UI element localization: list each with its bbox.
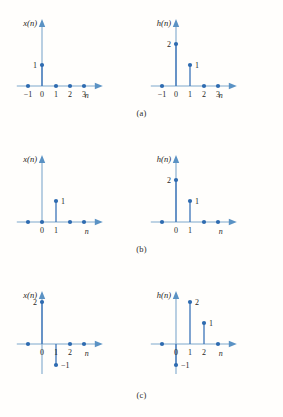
y-axis-arrow-icon (173, 155, 179, 163)
stem-point (40, 63, 44, 67)
stem-value-label: 2 (167, 40, 171, 49)
x-axis-arrow-icon (95, 83, 103, 89)
plot-container-b-x: x(n)n101 (8, 146, 144, 246)
x-axis-label: n (219, 349, 223, 358)
x-tick-label: 0 (40, 226, 44, 235)
x-tick-label: 1 (54, 90, 58, 99)
stem-point (26, 342, 30, 346)
x-tick-label: 1 (188, 348, 192, 357)
panel-a-plots: x(n)n1−10123h(n)n21−10123 (0, 10, 283, 110)
stem-point (82, 342, 86, 346)
stem-point (174, 42, 178, 46)
stem-point (54, 199, 58, 203)
x-axis-arrow-icon (229, 219, 237, 225)
stem-point (216, 84, 220, 88)
y-axis-label: x(n) (22, 18, 37, 28)
plot-container-c-h: h(n)n−121012 (142, 282, 278, 382)
stem-point (68, 84, 72, 88)
stem-point (188, 300, 192, 304)
stem-point (174, 178, 178, 182)
stem-point (174, 363, 178, 367)
x-axis-arrow-icon (229, 83, 237, 89)
stem-plot-b-h: h(n)n2101 (142, 146, 278, 246)
stem-point (216, 342, 220, 346)
stem-value-label: 2 (33, 298, 37, 307)
stem-point (188, 199, 192, 203)
stem-point (26, 220, 30, 224)
x-axis-label: n (85, 349, 89, 358)
x-tick-label: 2 (202, 348, 206, 357)
stem-point (160, 342, 164, 346)
stem-point (202, 321, 206, 325)
stem-plot-c-x: x(n)n2−1012 (8, 282, 144, 382)
stem-point (40, 300, 44, 304)
stem-value-label: −1 (181, 361, 190, 370)
stem-value-label: 1 (33, 61, 37, 70)
stem-point (202, 220, 206, 224)
plot-container-b-h: h(n)n2101 (142, 146, 278, 246)
y-axis-label: h(n) (157, 290, 171, 300)
panel-b-plots: x(n)n101h(n)n2101 (0, 146, 283, 246)
panel-caption-b: (b) (0, 244, 283, 254)
x-tick-label: 0 (174, 226, 178, 235)
panel-a: x(n)n1−10123h(n)n21−10123 (0, 10, 283, 110)
plot-container-a-x: x(n)n1−10123 (8, 10, 144, 110)
stem-point (54, 84, 58, 88)
x-tick-label: 3 (82, 90, 86, 99)
x-tick-label: 2 (68, 90, 72, 99)
x-tick-label: −1 (158, 90, 167, 99)
y-axis-label: h(n) (157, 18, 171, 28)
stem-point (54, 363, 58, 367)
x-tick-label: 1 (54, 226, 58, 235)
y-axis-arrow-icon (39, 19, 45, 27)
stem-point (160, 84, 164, 88)
stem-plot-a-x: x(n)n1−10123 (8, 10, 144, 110)
stem-plot-a-h: h(n)n21−10123 (142, 10, 278, 110)
stem-value-label: 1 (195, 197, 199, 206)
stem-value-label: 1 (195, 61, 199, 70)
stem-point (202, 84, 206, 88)
stem-point (82, 84, 86, 88)
stem-value-label: 2 (195, 298, 199, 307)
y-axis-arrow-icon (39, 291, 45, 299)
stem-plot-c-h: h(n)n−121012 (142, 282, 278, 382)
x-tick-label: 0 (174, 348, 178, 357)
plot-container-c-x: x(n)n2−1012 (8, 282, 144, 382)
x-tick-label: 2 (68, 348, 72, 357)
stem-plot-figure: x(n)n1−10123h(n)n21−10123(a)x(n)n101h(n)… (0, 0, 283, 417)
x-axis-arrow-icon (95, 219, 103, 225)
stem-plot-b-x: x(n)n101 (8, 146, 144, 246)
stem-point (68, 220, 72, 224)
stem-point (160, 220, 164, 224)
x-axis-label: n (219, 227, 223, 236)
panel-caption-c: (c) (0, 390, 283, 400)
stem-point (40, 220, 44, 224)
panel-caption-a: (a) (0, 108, 283, 118)
x-axis-arrow-icon (95, 341, 103, 347)
x-tick-label: 3 (216, 90, 220, 99)
plot-container-a-h: h(n)n21−10123 (142, 10, 278, 110)
stem-point (188, 63, 192, 67)
stem-value-label: −1 (61, 361, 70, 370)
stem-point (82, 220, 86, 224)
stem-point (26, 84, 30, 88)
y-axis-arrow-icon (39, 155, 45, 163)
stem-value-label: 1 (209, 319, 213, 328)
x-tick-label: −1 (24, 90, 33, 99)
x-axis-label: n (85, 227, 89, 236)
panel-b: x(n)n101h(n)n2101 (0, 146, 283, 246)
stem-value-label: 2 (167, 176, 171, 185)
x-tick-label: 2 (202, 90, 206, 99)
x-tick-label: 0 (174, 90, 178, 99)
panel-c: x(n)n2−1012h(n)n−121012 (0, 282, 283, 382)
stem-value-label: 1 (61, 197, 65, 206)
x-tick-label: 1 (188, 226, 192, 235)
stem-point (216, 220, 220, 224)
x-tick-label: 1 (188, 90, 192, 99)
x-axis-arrow-icon (229, 341, 237, 347)
x-tick-label: 1 (54, 348, 58, 357)
y-axis-label: x(n) (22, 154, 37, 164)
x-tick-label: 0 (40, 90, 44, 99)
x-tick-label: 0 (40, 348, 44, 357)
y-axis-arrow-icon (173, 19, 179, 27)
